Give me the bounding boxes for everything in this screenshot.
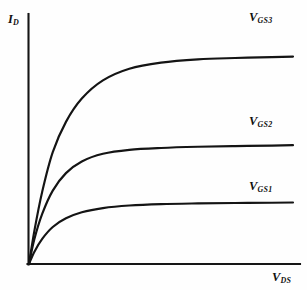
y-axis-label: ID — [8, 10, 19, 27]
curve-vgs3 — [29, 57, 293, 264]
curve-label-vgs3-subscript: GS3 — [258, 16, 273, 25]
curve-label-vgs1-subscript: GS1 — [258, 185, 273, 194]
x-axis-label-base: V — [272, 270, 281, 284]
curve-label-vgs2: VGS2 — [249, 112, 273, 129]
figure-container: ID VDS VGS3 VGS2 VGS1 — [0, 0, 307, 290]
x-axis-label-subscript: DS — [281, 276, 292, 285]
x-axis-label: VDS — [272, 268, 291, 285]
curve-label-vgs1-base: V — [249, 179, 258, 193]
characteristic-curves-plot — [0, 0, 307, 290]
curve-label-vgs1: VGS1 — [249, 177, 273, 194]
curve-label-vgs3-base: V — [249, 10, 258, 24]
curve-vgs1 — [29, 202, 293, 264]
curve-label-vgs3: VGS3 — [249, 8, 273, 25]
curve-label-vgs2-subscript: GS2 — [258, 120, 273, 129]
curve-label-vgs2-base: V — [249, 114, 258, 128]
y-axis-label-subscript: D — [13, 18, 19, 27]
